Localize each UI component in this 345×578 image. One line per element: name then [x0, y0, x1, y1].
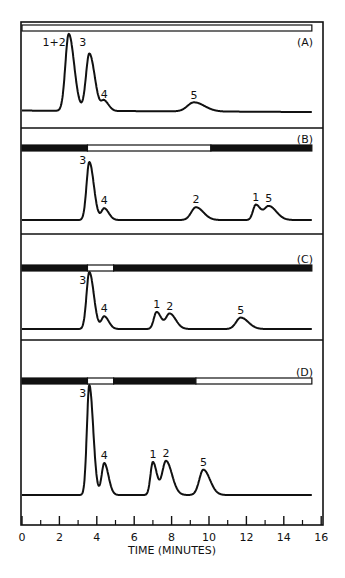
- tick-label: 10: [202, 531, 216, 544]
- program-segment-black: [211, 145, 312, 151]
- chromatogram-figure: (A)1+2345(B)34215(C)34125(D)34125 024681…: [0, 0, 345, 578]
- tick-label: 16: [314, 531, 328, 544]
- tick-label: 4: [93, 531, 100, 544]
- program-segment-white: [196, 378, 312, 384]
- figure-frame: [21, 22, 323, 525]
- panel-label: (C): [297, 253, 313, 266]
- program-segment-white: [87, 378, 113, 384]
- time-axis: 0246810121416: [19, 516, 329, 544]
- program-segment-white: [87, 145, 210, 151]
- program-segment-white: [22, 25, 312, 31]
- program-segment-black: [114, 378, 196, 384]
- panel-label: (B): [297, 133, 313, 146]
- program-segment-black: [22, 145, 87, 151]
- panel-d: (D)34125: [21, 340, 323, 495]
- peak-label: 3: [79, 36, 86, 49]
- peak-label: 4: [101, 449, 108, 462]
- peak-label: 5: [265, 192, 272, 205]
- tick-label: 12: [239, 531, 253, 544]
- chromatogram-trace: [22, 162, 312, 220]
- peak-label: 1: [153, 298, 160, 311]
- peak-label: 3: [79, 274, 86, 287]
- program-bar: [22, 25, 312, 31]
- tick-label: 8: [168, 531, 175, 544]
- panel-c: (C)34125: [21, 234, 323, 329]
- panel-b: (B)34215: [21, 128, 323, 220]
- peak-label: 2: [162, 447, 169, 460]
- program-segment-white: [87, 265, 113, 271]
- tick-label: 14: [277, 531, 291, 544]
- peak-label: 3: [79, 154, 86, 167]
- peak-label: 4: [101, 88, 108, 101]
- program-segment-black: [22, 265, 87, 271]
- x-axis-title: TIME (MINUTES): [127, 544, 216, 557]
- peak-label: 2: [192, 193, 199, 206]
- chromatogram-panels: (A)1+2345(B)34215(C)34125(D)34125: [21, 25, 323, 495]
- program-bar: [22, 145, 312, 151]
- program-segment-black: [22, 378, 87, 384]
- tick-label: 2: [56, 531, 63, 544]
- program-bar: [22, 265, 312, 271]
- peak-label: 4: [101, 194, 108, 207]
- peak-label: 1: [252, 191, 259, 204]
- outer-frame: [21, 22, 323, 525]
- peak-label: 5: [200, 456, 207, 469]
- peak-label: 1: [149, 448, 156, 461]
- peak-label: 3: [79, 387, 86, 400]
- panel-label: (D): [296, 366, 313, 379]
- program-segment-black: [114, 265, 312, 271]
- peak-label: 1+2: [43, 36, 66, 49]
- panel-label: (A): [297, 36, 313, 49]
- tick-label: 6: [131, 531, 138, 544]
- peak-label: 5: [237, 304, 244, 317]
- peak-label: 2: [166, 300, 173, 313]
- peak-label: 4: [101, 302, 108, 315]
- program-bar: [22, 378, 312, 384]
- chromatogram-trace: [22, 385, 312, 495]
- peak-label: 5: [191, 89, 198, 102]
- tick-label: 0: [19, 531, 26, 544]
- panel-a: (A)1+2345: [22, 25, 313, 112]
